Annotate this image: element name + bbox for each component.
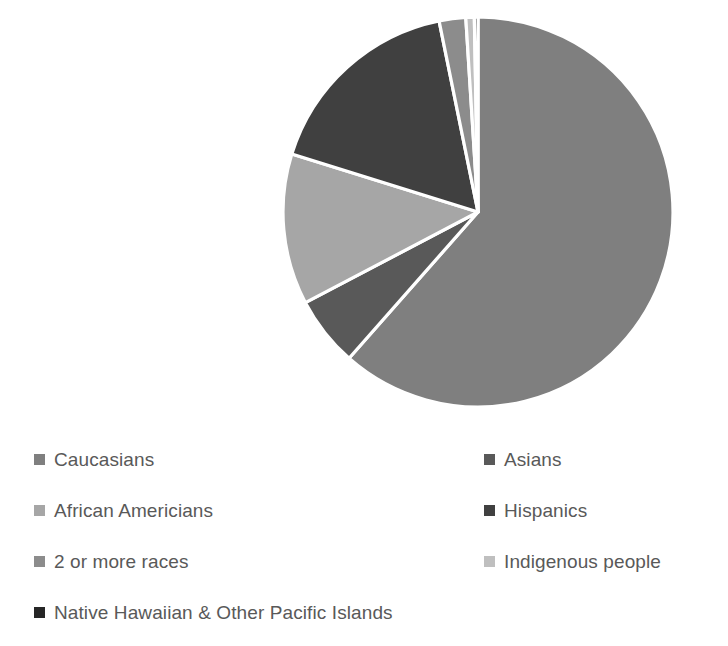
pie-slice-group: [283, 17, 673, 407]
legend-label-caucasians: Caucasians: [54, 450, 154, 469]
legend-swatch-caucasians: [34, 454, 45, 465]
legend-item-asians[interactable]: Asians: [484, 450, 562, 469]
legend-item-indigenous-people[interactable]: Indigenous people: [484, 552, 661, 571]
legend-swatch-african-americians: [34, 505, 45, 516]
legend-item-2-or-more-races[interactable]: 2 or more races: [34, 552, 189, 571]
legend-item-native-hawaiian[interactable]: Native Hawaiian & Other Pacific Islands: [34, 603, 393, 622]
legend-swatch-2-or-more-races: [34, 556, 45, 567]
legend-label-african-americians: African Americians: [54, 501, 213, 520]
legend-swatch-asians: [484, 454, 495, 465]
legend-swatch-indigenous-people: [484, 556, 495, 567]
legend-item-african-americians[interactable]: African Americians: [34, 501, 213, 520]
pie-chart-area: [0, 0, 728, 430]
pie-chart-svg: [0, 0, 728, 430]
legend-label-indigenous-people: Indigenous people: [504, 552, 661, 571]
legend-item-caucasians[interactable]: Caucasians: [34, 450, 154, 469]
legend-swatch-hispanics: [484, 505, 495, 516]
legend-label-hispanics: Hispanics: [504, 501, 587, 520]
legend-swatch-native-hawaiian: [34, 607, 45, 618]
chart-legend: Caucasians Asians African Americians His…: [0, 430, 728, 646]
legend-label-asians: Asians: [504, 450, 562, 469]
legend-label-2-or-more-races: 2 or more races: [54, 552, 189, 571]
legend-label-native-hawaiian: Native Hawaiian & Other Pacific Islands: [54, 603, 393, 622]
legend-item-hispanics[interactable]: Hispanics: [484, 501, 587, 520]
